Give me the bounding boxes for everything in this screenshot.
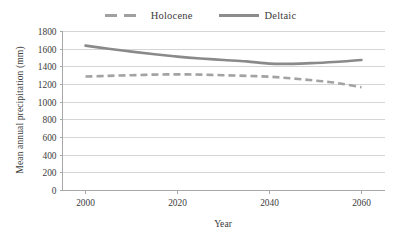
y-tick-label: 1000 [38, 98, 57, 108]
y-tick-labels-group: 020040060080010001200140016001800 [38, 27, 57, 196]
series-line-deltaic [86, 46, 362, 64]
x-tick-labels-group: 2000202020402060 [76, 198, 371, 208]
gridlines-group [60, 32, 385, 191]
series-line-holocene [86, 74, 362, 87]
y-tick-label: 1400 [38, 62, 57, 72]
x-tick-label: 2060 [352, 198, 371, 208]
x-tick-label: 2000 [76, 198, 95, 208]
chart-container: Holocene Deltaic Mean annual precipitati… [0, 0, 401, 242]
y-tick-label: 600 [42, 133, 56, 143]
x-tick-marks-group [86, 191, 362, 195]
chart-plot-area: 020040060080010001200140016001800 200020… [0, 0, 401, 242]
y-tick-label: 1600 [38, 45, 57, 55]
y-tick-label: 800 [42, 115, 56, 125]
x-tick-label: 2020 [168, 198, 187, 208]
y-tick-label: 200 [42, 168, 56, 178]
y-tick-label: 1200 [38, 80, 57, 90]
axis-lines-group [60, 32, 385, 191]
x-tick-label: 2040 [260, 198, 279, 208]
y-tick-label: 400 [42, 151, 56, 161]
x-axis-title: Year [62, 218, 384, 229]
y-tick-label: 1800 [38, 27, 57, 37]
y-tick-label: 0 [52, 186, 57, 196]
